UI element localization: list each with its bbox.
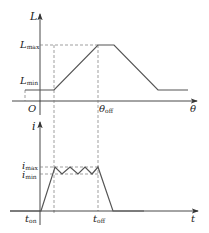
origin-label: O bbox=[28, 103, 36, 114]
theta-axis-label: θ bbox=[190, 103, 196, 114]
theta-off-label: θoff bbox=[99, 103, 114, 114]
inductance-current-diagram: L Lmax Lmin O θoff θ i imax imin ton tof… bbox=[0, 0, 209, 233]
l-max-label: Lmax bbox=[19, 39, 40, 50]
top-plot: L Lmax Lmin O θoff θ bbox=[12, 10, 197, 115]
inductance-curve bbox=[25, 45, 188, 90]
bottom-plot: i imax imin ton toff t bbox=[10, 120, 198, 225]
i-axis-label: i bbox=[32, 120, 36, 133]
l-axis-label: L bbox=[29, 10, 37, 23]
top-guides bbox=[25, 45, 98, 101]
l-min-label: Lmin bbox=[19, 75, 38, 86]
t-axis-label: t bbox=[191, 213, 196, 224]
t-on-label: ton bbox=[25, 213, 37, 224]
shared-guides bbox=[54, 45, 98, 215]
t-off-label: toff bbox=[93, 213, 106, 224]
